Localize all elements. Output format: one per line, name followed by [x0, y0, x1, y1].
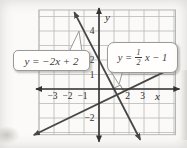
y-tick-label: 4 [90, 26, 95, 36]
equation-line2-rhs: x − 1 [145, 52, 167, 63]
scan-artifact [180, 70, 187, 140]
y-tick-label: 2 [90, 55, 95, 65]
figure: −3−2−123421−2 y x y = −2x + 2 y = 1 2 x … [0, 0, 187, 148]
callout-line1: y = −2x + 2 [13, 50, 90, 71]
y-tick-label: 1 [90, 70, 95, 80]
equation-line1: y = −2x + 2 [24, 55, 78, 67]
x-tick-label: 3 [140, 91, 145, 101]
fraction: 1 2 [135, 48, 142, 67]
x-tick-label: 2 [125, 91, 130, 101]
y-axis-label: y [104, 11, 110, 23]
callout-tail-line1 [69, 31, 82, 52]
fraction-numerator: 1 [135, 48, 142, 58]
x-tick-label: −2 [62, 91, 72, 101]
equation-line2-lhs: y = [118, 52, 132, 63]
x-tick-label: −1 [77, 91, 87, 101]
fraction-denominator: 2 [137, 58, 141, 67]
x-tick-label: −3 [47, 91, 57, 101]
y-tick-label: −2 [84, 113, 94, 123]
scan-artifact [0, 126, 20, 144]
graph-canvas: −3−2−123421−2 y x [0, 0, 187, 148]
callout-line2: y = 1 2 x − 1 [107, 42, 178, 73]
x-axis-label: x [154, 90, 160, 102]
